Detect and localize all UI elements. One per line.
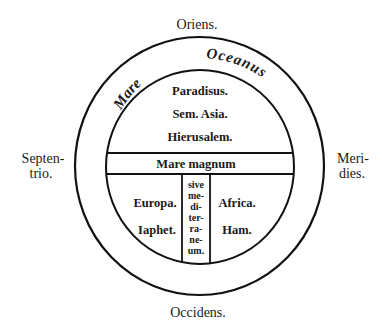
t-o-map: Oriens. Occidens. Septen- trio. Meri- di…: [0, 0, 383, 329]
label-mare-magnum: Mare magnum: [156, 157, 236, 171]
label-iaphet: Iaphet.: [138, 223, 176, 237]
mediterranean-column-text: sive me- di- ter- ra- ne- um.: [188, 179, 205, 256]
svg-text:sive: sive: [188, 179, 205, 190]
label-oceanus: Oceanus: [206, 45, 271, 80]
label-paradisus: Paradisus.: [172, 84, 228, 98]
svg-text:di-: di-: [190, 201, 202, 212]
label-occidens: Occidens.: [170, 305, 226, 320]
label-africa: Africa.: [218, 196, 255, 210]
svg-text:um.: um.: [188, 245, 205, 256]
svg-text:me-: me-: [188, 190, 204, 201]
svg-text:ter-: ter-: [188, 212, 203, 223]
label-sem-asia: Sem. Asia.: [172, 107, 227, 121]
label-oriens: Oriens.: [177, 17, 218, 32]
label-meridies-1: Meri-: [337, 151, 369, 166]
label-ham: Ham.: [222, 223, 252, 237]
label-europa: Europa.: [133, 196, 176, 210]
label-hierusalem: Hierusalem.: [168, 130, 233, 144]
svg-text:ne-: ne-: [189, 234, 202, 245]
svg-text:ra-: ra-: [190, 223, 203, 234]
label-septentrio-2: trio.: [30, 166, 53, 181]
label-meridies-2: dies.: [339, 166, 365, 181]
label-septentrio-1: Septen-: [22, 151, 65, 166]
